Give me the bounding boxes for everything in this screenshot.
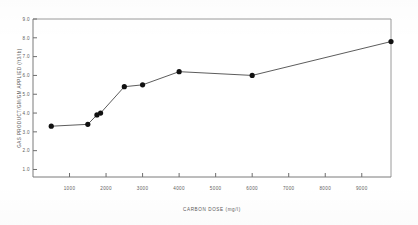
y-tick-label: 9.0	[23, 17, 31, 22]
y-tick-label: 2.0	[23, 148, 31, 153]
x-tick-label: 7000	[283, 186, 295, 191]
x-tick-label: 6000	[246, 186, 258, 191]
x-tick-label: 8000	[319, 186, 331, 191]
y-tick-label: 8.0	[23, 36, 31, 41]
y-tick-label: 6.0	[23, 73, 31, 78]
x-tick-label: 5000	[210, 186, 222, 191]
x-tick-label: 4000	[173, 186, 185, 191]
plot-frame	[33, 19, 391, 177]
data-point-marker	[177, 69, 182, 74]
chart-figure: 1.02.03.04.05.06.07.08.09.0 100020003000…	[0, 0, 418, 225]
y-tick-label: 1.0	[23, 167, 31, 172]
x-tick-label: 3000	[137, 186, 149, 191]
data-point-marker	[122, 84, 127, 89]
x-tick-label: 1000	[64, 186, 76, 191]
data-point-marker	[388, 39, 393, 44]
y-tick-label: 3.0	[23, 130, 31, 135]
data-point-marker	[250, 73, 255, 78]
y-tick-label: 4.0	[23, 111, 31, 116]
y-axis-tick-labels: 1.02.03.04.05.06.07.08.09.0	[23, 17, 31, 172]
x-tick-label: 9000	[356, 186, 368, 191]
y-tick-label: 7.0	[23, 54, 31, 59]
x-axis-tick-labels: 100020003000400050006000700080009000	[64, 186, 368, 191]
data-series	[49, 39, 394, 129]
x-axis-ticks	[70, 173, 362, 177]
data-point-marker	[140, 82, 145, 87]
y-axis-title: GAS PRODUCT/GM/GM APPLIED (ft3/lb)	[17, 48, 22, 147]
x-tick-label: 2000	[100, 186, 112, 191]
data-point-marker	[49, 124, 54, 129]
y-tick-label: 5.0	[23, 92, 31, 97]
data-point-marker	[98, 110, 103, 115]
line-chart: 1.02.03.04.05.06.07.08.09.0 100020003000…	[0, 0, 418, 225]
x-axis-title: CARBON DOSE (mg/l)	[183, 207, 241, 212]
data-point-marker	[85, 122, 90, 127]
y-axis-ticks	[33, 19, 37, 169]
